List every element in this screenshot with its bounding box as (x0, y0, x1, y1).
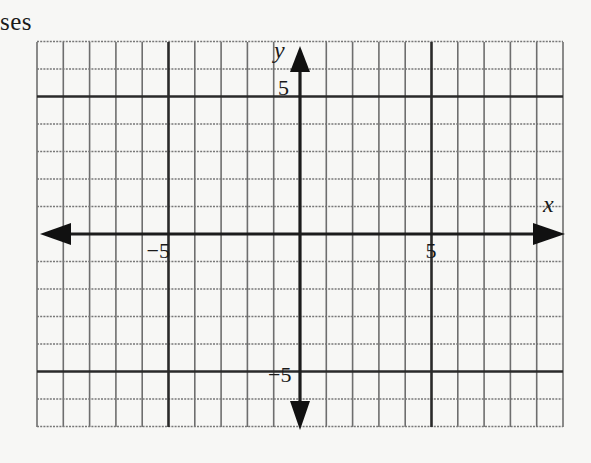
x-axis-right-arrow-icon (533, 223, 565, 245)
y-axis-label: y (274, 38, 285, 62)
y-axis-up-arrow-icon (290, 46, 310, 72)
tick-label-y-neg5: −5 (268, 364, 291, 386)
x-axis-left-arrow-icon (40, 223, 71, 245)
tick-label-y-pos5: 5 (278, 77, 289, 99)
coordinate-grid (0, 0, 591, 463)
x-axis-label: x (543, 192, 554, 216)
tick-label-x-pos5: 5 (426, 240, 437, 262)
y-axis-down-arrow-icon (290, 401, 310, 430)
tick-label-x-neg5: −5 (147, 240, 170, 262)
